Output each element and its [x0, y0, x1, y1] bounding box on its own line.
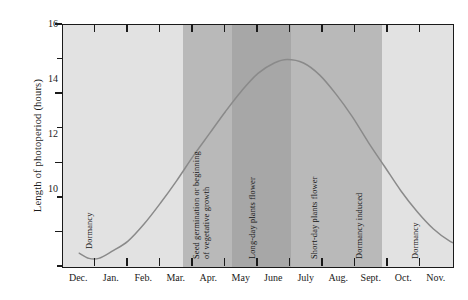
band-label-seed-germination-line1: Seed germination or beginning — [192, 151, 202, 259]
y-tick-label-14: 14 — [36, 74, 58, 84]
x-axis-tick-labels: Dec.Jan.Feb.Mar.Apr.MayJuneJulyAug.Sept.… — [62, 272, 452, 292]
plot-area: Dormancy Seed germination or beginning o… — [62, 24, 454, 268]
band-label-dormancy-autumn: Dormancy — [411, 222, 420, 259]
photoperiod-chart-figure: Length of photoperiod (hours) 16 14 12 1… — [0, 0, 468, 300]
band-label-short-day-plants-flower: Short-day plants flower — [310, 176, 319, 259]
band-label-dormancy-winter: Dormancy — [85, 212, 94, 249]
band-label-long-day-plants-flower: Long-day plants flower — [248, 177, 257, 259]
y-tick-label-10: 10 — [36, 184, 58, 194]
photoperiod-curve — [63, 25, 453, 267]
y-tick-label-12: 12 — [36, 129, 58, 139]
x-tick-label-nov: Nov. — [414, 272, 458, 283]
band-label-seed-germination-line2: of vegetative growth — [202, 151, 212, 259]
band-label-dormancy-induced: Dormancy induced — [355, 193, 364, 259]
y-axis-tick-labels: 16 14 12 10 — [20, 0, 58, 300]
y-tick-label-16: 16 — [36, 19, 58, 29]
photoperiod-curve-path — [79, 60, 453, 260]
band-label-seed-germination: Seed germination or beginning of vegetat… — [192, 151, 211, 259]
